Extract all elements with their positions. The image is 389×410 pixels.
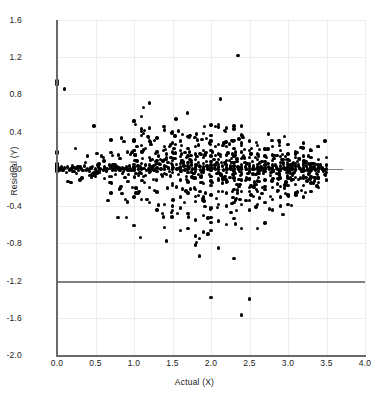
gridline-x-1: [96, 20, 97, 355]
lower-control-limit-line: [57, 281, 365, 282]
y-tick-label-8: -1.6: [0, 313, 22, 323]
x-tick-label-4: 2.0: [205, 358, 217, 368]
y-tick-label-1: 1.2: [0, 52, 22, 62]
x-tick-label-3: 1.5: [166, 358, 178, 368]
x-tick-label-1: 0.5: [89, 358, 101, 368]
gridline-y-0: [57, 20, 365, 21]
y-tick-label-0: 1.6: [0, 15, 22, 25]
gridline-y-8: [57, 318, 365, 319]
x-axis-line: [56, 355, 366, 357]
gridline-x-4: [211, 20, 212, 355]
x-axis-title: Actual (X): [0, 377, 389, 387]
y-tick-label-7: -1.2: [0, 276, 22, 286]
y-tick-label-9: -2.0: [0, 350, 22, 360]
x-tick-label-6: 3.0: [282, 358, 294, 368]
x-tick-label-2: 1.0: [128, 358, 140, 368]
gridline-x-7: [327, 20, 328, 355]
gridline-x-8: [365, 20, 366, 355]
y-axis-line: [56, 20, 58, 356]
x-tick-label-8: 4.0: [359, 358, 371, 368]
x-tick-label-5: 2.5: [243, 358, 255, 368]
gridline-x-6: [288, 20, 289, 355]
gridline-x-3: [173, 20, 174, 355]
y-tick-label-2: 0.8: [0, 89, 22, 99]
x-tick-label-7: 3.5: [320, 358, 332, 368]
gridline-y-1: [57, 57, 365, 58]
residual-scatter-chart: 0.00.51.01.52.02.53.03.54.0 1.61.20.80.4…: [0, 0, 389, 410]
gridline-y-3: [57, 132, 365, 133]
plot-area: [57, 20, 365, 355]
y-tick-label-6: -0.8: [0, 238, 22, 248]
gridline-y-2: [57, 94, 365, 95]
x-tick-label-0: 0.0: [51, 358, 63, 368]
y-axis-title: Residual (Y): [9, 111, 19, 231]
gridline-y-6: [57, 243, 365, 244]
